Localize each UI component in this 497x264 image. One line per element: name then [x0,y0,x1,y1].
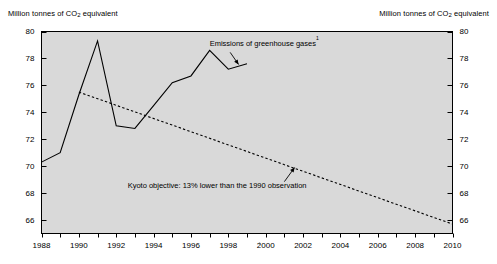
x-axis-label: 2006 [369,241,387,250]
x-axis-label: 2008 [406,241,424,250]
y-axis-label-right: 72 [460,135,469,144]
y-axis-label-right: 80 [460,27,469,36]
x-axis-label: 2002 [294,241,312,250]
y-axis-label-left: 70 [26,162,35,171]
y-axis-label-right: 70 [460,162,469,171]
x-axis-label: 2000 [257,241,275,250]
plot-background [42,32,453,234]
y-axis-label-left: 68 [26,189,35,198]
x-axis-label: 1998 [219,241,237,250]
x-axis-label: 1994 [145,241,163,250]
y-axis-label-right: 68 [460,189,469,198]
y-axis-label-right: 66 [460,216,469,225]
x-axis-label: 2004 [332,241,350,250]
y-axis-label-left: 66 [26,216,35,225]
y-axis-label-left: 80 [26,27,35,36]
y-axis-right-labels: 6668707274767880 [460,27,469,225]
y-axis-label-left: 72 [26,135,35,144]
y-axis-label-right: 76 [460,81,469,90]
x-axis-labels: 1988199019921994199619982000200220042006… [33,241,462,250]
y-axis-label-left: 74 [26,108,35,117]
y-axis-label-right: 78 [460,54,469,63]
x-axis-label: 1992 [107,241,125,250]
stray-mark [259,243,261,245]
x-axis-label: 1996 [182,241,200,250]
x-axis-minor-ticks [43,234,454,238]
y-axis-label-left: 78 [26,54,35,63]
x-axis-label: 1990 [70,241,88,250]
line-chart-plot: 6668707274767880 6668707274767880 198819… [0,0,497,264]
y-axis-label-left: 76 [26,81,35,90]
x-axis-label: 2010 [444,241,462,250]
y-axis-label-right: 74 [460,108,469,117]
y-axis-left-labels: 6668707274767880 [26,27,35,225]
chart-container: Million tonnes of CO2 equivalent Million… [0,0,497,264]
kyoto-label: Kyoto objective: 13% lower than the 1990… [128,181,307,190]
footnote-marker: 1 [316,35,319,41]
x-axis-label: 1988 [33,241,51,250]
